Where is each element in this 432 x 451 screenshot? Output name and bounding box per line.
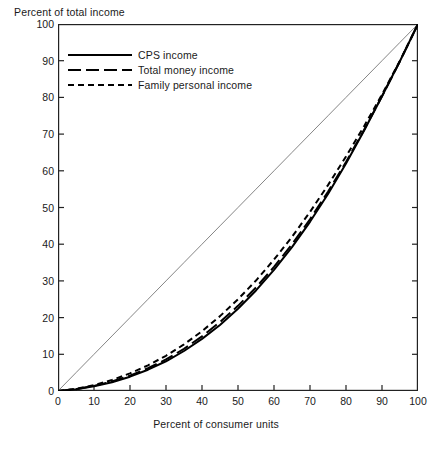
- legend-label: Family personal income: [134, 79, 252, 91]
- x-axis-title: Percent of consumer units: [0, 418, 432, 430]
- x-tick-label: 40: [182, 396, 222, 407]
- x-tick-label: 30: [146, 396, 186, 407]
- legend-label: Total money income: [134, 64, 234, 76]
- x-tick-label: 70: [290, 396, 330, 407]
- legend-line-icon: [68, 49, 134, 61]
- x-tick-label: 0: [38, 396, 78, 407]
- x-tick-label: 10: [74, 396, 114, 407]
- x-tick-label: 80: [326, 396, 366, 407]
- legend-item: Family personal income: [68, 77, 308, 92]
- legend-item: CPS income: [68, 47, 308, 62]
- lorenz-curve-figure: Percent of total income 0102030405060708…: [0, 0, 432, 451]
- legend-swatch-long-dash: [68, 64, 134, 76]
- legend-swatch-solid: [68, 49, 134, 61]
- legend: CPS incomeTotal money incomeFamily perso…: [68, 47, 308, 92]
- legend-item: Total money income: [68, 62, 308, 77]
- x-tick-label: 90: [362, 396, 402, 407]
- x-tick-label: 100: [398, 396, 432, 407]
- x-tick-label: 50: [218, 396, 258, 407]
- legend-line-icon: [68, 79, 134, 91]
- legend-swatch-short-dash: [68, 79, 134, 91]
- x-tick-label: 20: [110, 396, 150, 407]
- x-tick-label: 60: [254, 396, 294, 407]
- legend-label: CPS income: [134, 49, 198, 61]
- legend-line-icon: [68, 64, 134, 76]
